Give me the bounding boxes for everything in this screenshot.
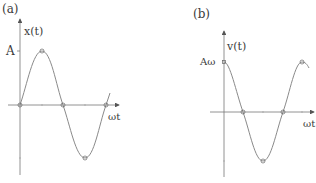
plot-b <box>210 31 314 177</box>
amplitude-label-a: A <box>6 45 15 57</box>
panel-label-b: (b) <box>193 8 210 20</box>
plots-canvas <box>0 0 316 183</box>
diagram: (a) x(t) A ωt (b) v(t) Aω ωt <box>0 0 316 183</box>
plot-a <box>8 19 119 175</box>
amplitude-label-b: Aω <box>200 57 215 67</box>
y-axis-label-a: x(t) <box>24 26 43 37</box>
x-axis-label-a: ωt <box>108 112 120 122</box>
y-axis-label-b: v(t) <box>227 41 246 52</box>
x-axis-label-b: ωt <box>303 119 315 129</box>
panel-label-a: (a) <box>2 3 19 15</box>
cosine-curve <box>224 62 309 161</box>
